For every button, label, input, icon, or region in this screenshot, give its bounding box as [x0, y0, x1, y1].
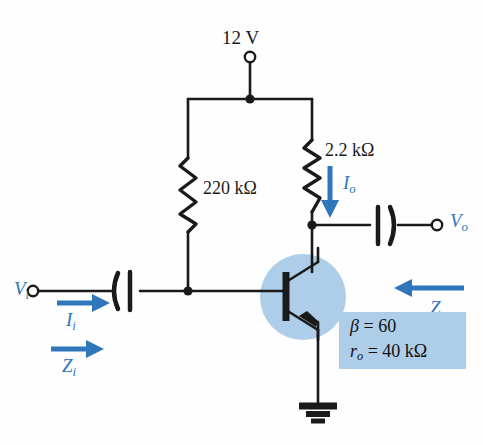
ro-symbol: r: [350, 341, 357, 361]
ii-arrow: [57, 294, 110, 312]
zo-arrow: [394, 279, 464, 297]
transistor-highlight-circle: [260, 254, 346, 340]
beta-parameter-line: β = 60: [350, 316, 396, 337]
beta-value: 60: [378, 316, 396, 336]
supply-junction-dot: [245, 94, 254, 103]
collector-resistor-symbol: [304, 140, 320, 212]
input-impedance-symbol: Z: [62, 355, 73, 376]
output-current-label: Io: [343, 172, 356, 197]
io-arrow: [321, 166, 339, 218]
output-voltage-label: Vo: [450, 210, 468, 235]
collector-resistor-label: 2.2 kΩ: [325, 140, 374, 161]
circuit-diagram-figure: 12 V 220 kΩ 2.2 kΩ Io Vi Ii Zi Vo Zo β =…: [0, 0, 483, 445]
output-terminal-node[interactable]: [432, 220, 442, 230]
input-impedance-label: Zi: [62, 355, 76, 380]
input-current-subscript: i: [72, 318, 76, 333]
input-impedance-subscript: i: [73, 364, 77, 379]
ro-equals: =: [363, 341, 382, 361]
beta-symbol: β: [350, 316, 359, 336]
output-coupling-capacitor-symbol: [378, 207, 394, 244]
output-current-subscript: o: [349, 181, 355, 196]
base-bias-resistor-symbol: [180, 158, 196, 232]
input-current-label: Ii: [66, 309, 76, 334]
input-voltage-subscript: i: [26, 287, 30, 302]
supply-terminal-node[interactable]: [245, 52, 255, 62]
ro-value: 40 kΩ: [382, 341, 427, 361]
input-coupling-capacitor-symbol: [114, 272, 130, 310]
output-voltage-symbol: V: [450, 210, 462, 231]
base-junction-dot: [183, 286, 192, 295]
input-voltage-symbol: V: [14, 278, 26, 299]
input-voltage-label: Vi: [14, 278, 29, 303]
beta-equals: =: [359, 316, 378, 336]
collector-junction-dot: [307, 220, 316, 229]
ro-parameter-line: ro = 40 kΩ: [350, 341, 427, 364]
transistor-parameters-box: β = 60 ro = 40 kΩ: [339, 312, 466, 369]
input-terminal-node[interactable]: [28, 286, 38, 296]
supply-voltage-label: 12 V: [222, 27, 259, 49]
zi-arrow: [51, 340, 104, 358]
base-bias-resistor-label: 220 kΩ: [203, 178, 257, 199]
output-voltage-subscript: o: [462, 219, 468, 234]
ground-symbol: [299, 406, 337, 421]
